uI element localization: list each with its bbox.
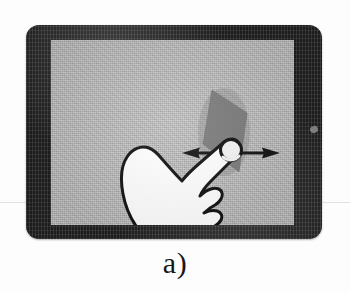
tablet-device: [26, 25, 322, 239]
gesture-illustration: [51, 40, 294, 225]
side-port-icon: [309, 125, 319, 134]
tablet-screen[interactable]: [51, 40, 294, 225]
fingertip-touch-circle: [221, 140, 242, 161]
figure-container: a): [0, 0, 350, 292]
subfigure-label-a: a): [0, 243, 350, 283]
gesture-vector-art: [51, 40, 294, 225]
